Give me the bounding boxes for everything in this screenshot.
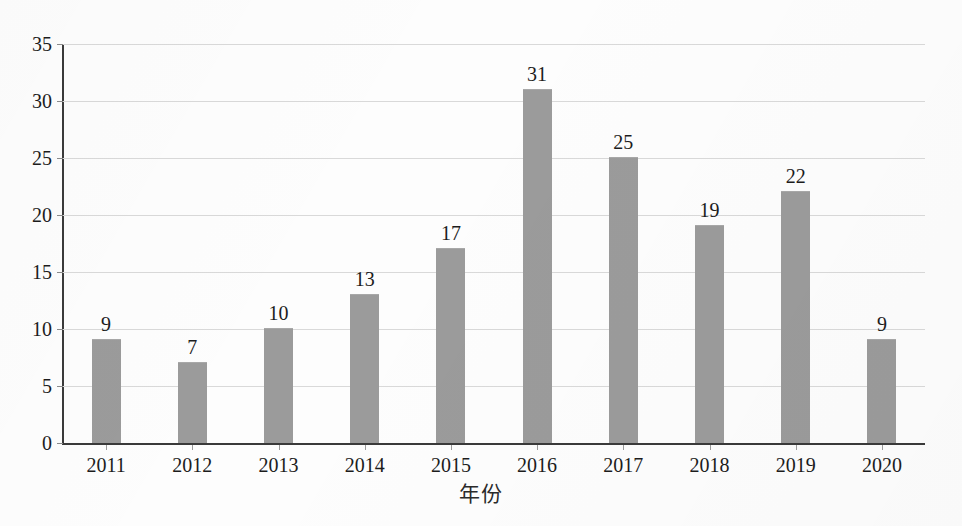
y-axis-tick-label: 5: [6, 376, 52, 396]
x-axis-tick-label: 2011: [63, 455, 149, 475]
y-axis-tick-label: 20: [6, 205, 52, 225]
x-axis-tick-mark: [796, 445, 797, 450]
bar-value-label: 7: [162, 337, 222, 357]
x-axis-tick-mark: [710, 445, 711, 450]
x-axis-tick-mark: [106, 445, 107, 450]
bar-value-label: 9: [76, 314, 136, 334]
y-axis-tick-mark: [57, 44, 63, 45]
x-axis-tick-label: 2018: [667, 455, 753, 475]
gridline: [63, 44, 925, 45]
bar[interactable]: [92, 339, 121, 443]
y-axis-tick-mark: [57, 215, 63, 216]
bar[interactable]: [436, 248, 465, 443]
x-axis-tick-mark: [192, 445, 193, 450]
x-axis-tick-mark: [623, 445, 624, 450]
x-axis-tick-mark: [882, 445, 883, 450]
bar-chart-figure: 05101520253035 97101317312519229 年份 2011…: [0, 0, 962, 526]
bar[interactable]: [781, 191, 810, 443]
x-axis-tick-mark: [537, 445, 538, 450]
bar-value-label: 9: [852, 314, 912, 334]
y-axis-tick-label: 35: [6, 34, 52, 54]
bar[interactable]: [867, 339, 896, 443]
bar-value-label: 25: [593, 132, 653, 152]
y-axis-tick-mark: [57, 101, 63, 102]
bar[interactable]: [695, 225, 724, 443]
x-axis-tick-label: 2012: [149, 455, 235, 475]
x-axis-tick-label: 2020: [839, 455, 925, 475]
x-axis-tick-label: 2013: [236, 455, 322, 475]
x-axis-tick-mark: [279, 445, 280, 450]
y-axis-tick-mark: [57, 158, 63, 159]
y-axis-tick-labels: 05101520253035: [0, 0, 52, 526]
x-axis-tick-label: 2014: [322, 455, 408, 475]
y-axis-tick-label: 0: [6, 433, 52, 453]
y-axis-tick-mark: [57, 329, 63, 330]
y-axis-tick-label: 15: [6, 262, 52, 282]
x-axis-tick-mark: [451, 445, 452, 450]
bar-value-label: 22: [766, 166, 826, 186]
x-axis-tick-label: 2019: [753, 455, 839, 475]
bar-value-label: 17: [421, 223, 481, 243]
y-axis-tick-mark: [57, 443, 63, 444]
bar-value-label: 31: [507, 64, 567, 84]
x-axis-tick-label: 2015: [408, 455, 494, 475]
gridline: [63, 158, 925, 159]
x-axis-tick-label: 2016: [494, 455, 580, 475]
bar[interactable]: [523, 89, 552, 443]
y-axis-tick-label: 10: [6, 319, 52, 339]
bar[interactable]: [178, 362, 207, 443]
bar-value-label: 19: [680, 200, 740, 220]
bar-value-label: 13: [335, 269, 395, 289]
y-axis-tick-label: 25: [6, 148, 52, 168]
bar[interactable]: [609, 157, 638, 443]
x-axis-tick-mark: [365, 445, 366, 450]
x-axis-title: 年份: [0, 477, 962, 507]
x-axis-tick-label: 2017: [580, 455, 666, 475]
y-axis-tick-mark: [57, 386, 63, 387]
y-axis-tick-mark: [57, 272, 63, 273]
bar-value-label: 10: [249, 303, 309, 323]
bar[interactable]: [264, 328, 293, 443]
y-axis-tick-label: 30: [6, 91, 52, 111]
gridline: [63, 101, 925, 102]
plot-area: 97101317312519229: [63, 44, 925, 443]
bar[interactable]: [350, 294, 379, 443]
